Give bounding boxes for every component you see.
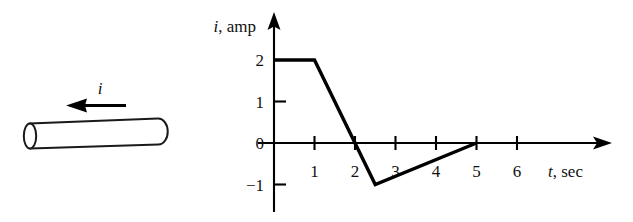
- conductor-body: [30, 118, 168, 148]
- x-tick-label-1: 1: [310, 162, 319, 181]
- y-tick-label-1: 1: [256, 93, 265, 112]
- conductor-diagram: i: [24, 79, 168, 149]
- conductor-end-cap-ellipse: [24, 123, 36, 148]
- x-tick-label-6: 6: [513, 162, 522, 181]
- x-tick-label-5: 5: [472, 162, 481, 181]
- current-arrow-head: [66, 99, 87, 113]
- x-axis-label-unit: , sec: [553, 162, 584, 181]
- y-tick-label-minus-1: −1: [246, 176, 264, 195]
- current-waveform-line: [274, 60, 477, 185]
- x-tick-label-2: 2: [351, 162, 360, 181]
- y-axis: [268, 12, 281, 212]
- current-direction-arrow: [66, 99, 126, 113]
- y-axis-tick-labels: 2 1 0 −1: [246, 51, 264, 195]
- chart: 2 1 0 −1 1 2 3 4 5 6: [213, 12, 612, 212]
- figure-container: i 2 1 0: [0, 0, 633, 222]
- y-tick-label-0: 0: [256, 134, 265, 153]
- conductor-current-label: i: [98, 79, 103, 98]
- y-axis-label-unit: , amp: [218, 17, 256, 36]
- x-axis-tick-labels: 1 2 3 4 5 6: [310, 162, 521, 181]
- y-axis-ticks: [274, 60, 286, 185]
- y-tick-label-2: 2: [256, 51, 265, 70]
- x-tick-label-4: 4: [432, 162, 441, 181]
- x-axis-label: t, sec: [548, 162, 583, 181]
- current-waveform-figure: i 2 1 0: [0, 0, 633, 222]
- y-axis-label: i, amp: [213, 17, 256, 36]
